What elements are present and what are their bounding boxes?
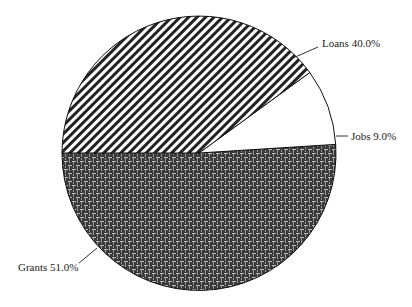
label-grants: Grants 51.0%	[18, 261, 79, 273]
label-jobs: Jobs 9.0%	[351, 130, 396, 142]
pie-chart: Loans 40.0% Jobs 9.0% Grants 51.0%	[0, 0, 412, 307]
leader-grants	[79, 248, 97, 263]
leader-loans	[293, 47, 318, 58]
label-loans: Loans 40.0%	[322, 37, 380, 49]
slice-grants	[62, 144, 336, 290]
